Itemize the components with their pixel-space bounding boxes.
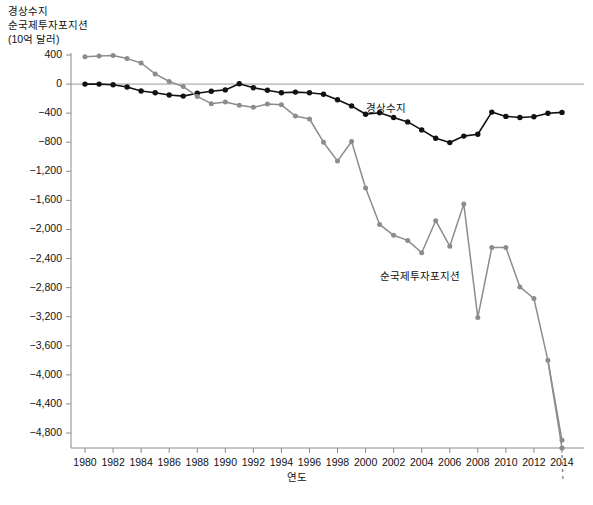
series-point — [209, 89, 214, 94]
chart-plot-area — [0, 0, 593, 505]
x-axis-title: 연도 — [0, 470, 593, 484]
series-point — [433, 218, 438, 223]
series-point — [97, 54, 102, 59]
series-point-niip-axis-crossing — [559, 445, 564, 450]
series-point — [517, 115, 522, 120]
series-point — [195, 94, 200, 99]
series-point — [181, 84, 186, 89]
series-point — [560, 438, 565, 443]
series-point — [265, 88, 270, 93]
series-point — [307, 117, 312, 122]
chart-container: 경상수지 순국제투자포지션 (10억 달러) 연도 4000−400−800−1… — [0, 0, 593, 505]
series-point — [139, 61, 144, 66]
series-point — [321, 92, 326, 97]
series-point — [531, 296, 536, 301]
series-point — [321, 140, 326, 145]
series-point — [293, 89, 298, 94]
series-point — [419, 127, 424, 132]
series-point — [279, 102, 284, 107]
series-point — [96, 81, 101, 86]
series-label-niip: 순국제투자포지션 — [380, 268, 460, 283]
series-point — [545, 111, 550, 116]
series-label-current-account: 경상수지 — [366, 100, 406, 115]
y-axis-tick-label: −2,000 — [0, 222, 62, 234]
series-point — [125, 56, 130, 61]
series-point — [251, 105, 256, 110]
series-point — [167, 92, 172, 97]
y-axis-tick-label: −4,000 — [0, 368, 62, 380]
series-point — [223, 87, 228, 92]
y-axis-tick-label: −3,200 — [0, 310, 62, 322]
series-point — [335, 159, 340, 164]
series-point — [349, 139, 354, 144]
series-point — [475, 132, 480, 137]
series-point — [405, 238, 410, 243]
series-point — [349, 103, 354, 108]
series-point — [251, 85, 256, 90]
y-axis-tick-label: −2,800 — [0, 281, 62, 293]
series-point — [391, 115, 396, 120]
series-point — [237, 81, 242, 86]
series-point — [110, 82, 115, 87]
series-point — [433, 136, 438, 141]
y-axis-tick-label: −3,600 — [0, 339, 62, 351]
series-point — [363, 186, 368, 191]
y-axis-tick-label: −1,600 — [0, 193, 62, 205]
series-point — [461, 133, 466, 138]
series-point — [111, 53, 116, 58]
series-point — [307, 90, 312, 95]
series-point — [475, 315, 480, 320]
y-axis-tick-label: −1,200 — [0, 164, 62, 176]
series-point — [181, 93, 186, 98]
series-point — [293, 114, 298, 119]
y-axis-tick-label: −400 — [0, 106, 62, 118]
series-point — [335, 97, 340, 102]
series-point — [237, 103, 242, 108]
series-point — [461, 202, 466, 207]
series-point — [419, 250, 424, 255]
series-point — [153, 90, 158, 95]
series-point — [517, 284, 522, 289]
series-point — [167, 79, 172, 84]
y-axis-tick-label: −4,400 — [0, 397, 62, 409]
series-line-niip-offchart — [548, 360, 562, 448]
series-point — [83, 54, 88, 59]
series-point — [503, 245, 508, 250]
y-axis-tick-label: −2,400 — [0, 252, 62, 264]
series-point — [279, 90, 284, 95]
x-axis-tick-label: 2014 — [542, 456, 582, 468]
series-point — [153, 71, 158, 76]
series-point — [82, 81, 87, 86]
series-point — [391, 233, 396, 238]
series-point — [545, 358, 550, 363]
y-axis-tick-label: 0 — [0, 77, 62, 89]
y-axis-tick-label: −4,800 — [0, 426, 62, 438]
y-axis-tick-label: 400 — [0, 48, 62, 60]
series-point — [503, 114, 508, 119]
series-point — [124, 84, 129, 89]
series-point — [265, 102, 270, 107]
series-point — [559, 110, 564, 115]
series-point — [447, 244, 452, 249]
series-point — [223, 99, 228, 104]
series-point — [138, 88, 143, 93]
y-axis-tick-label: −800 — [0, 135, 62, 147]
series-point — [489, 109, 494, 114]
series-point — [377, 222, 382, 227]
series-point — [447, 140, 452, 145]
series-point — [405, 119, 410, 124]
series-point — [209, 101, 214, 106]
series-point — [489, 245, 494, 250]
series-point — [531, 114, 536, 119]
